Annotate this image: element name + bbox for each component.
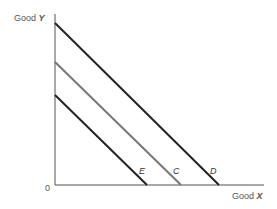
line-d [55,23,219,185]
label-e: E [139,166,146,176]
origin-label: 0 [45,183,50,193]
budget-line-diagram: Good Y Good X 0 E C D [0,0,277,209]
line-e [55,95,147,185]
line-c [55,62,181,185]
label-d: D [210,166,217,176]
x-axis-label: Good X [232,191,264,201]
y-axis-label: Good Y [14,13,46,23]
label-c: C [173,166,180,176]
